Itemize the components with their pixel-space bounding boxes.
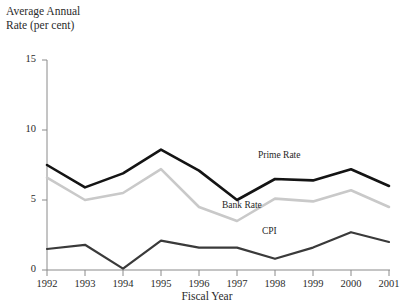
x-tick-label-1992: 1992 [27,278,67,289]
x-axis-label: Fiscal Year [0,290,414,302]
x-tick-label-1993: 1993 [65,278,105,289]
chart-canvas [0,0,414,308]
x-tick-label-2000: 2000 [331,278,371,289]
x-tick-label-1994: 1994 [103,278,143,289]
x-tick-label-1996: 1996 [179,278,219,289]
series-line-bank-rate [47,169,389,221]
chart-container: Average AnnualRate (per cent) [0,0,414,308]
series-line-cpi [47,232,389,268]
x-tick-label-2001: 2001 [369,278,409,289]
series-label-cpi: CPI [262,226,277,236]
x-tick-label-1999: 1999 [293,278,333,289]
x-tick-label-1995: 1995 [141,278,181,289]
x-axis-ticks [47,270,389,276]
y-tick-label-0: 0 [10,263,36,274]
x-tick-label-1998: 1998 [255,278,295,289]
series-label-prime-rate: Prime Rate [258,150,300,160]
series-label-bank-rate: Bank Rate [222,200,262,210]
y-tick-label-5: 5 [10,193,36,204]
y-tick-label-10: 10 [10,123,36,134]
series-layer [47,150,389,269]
y-tick-label-15: 15 [10,53,36,64]
series-line-prime-rate [47,150,389,200]
x-tick-label-1997: 1997 [217,278,257,289]
